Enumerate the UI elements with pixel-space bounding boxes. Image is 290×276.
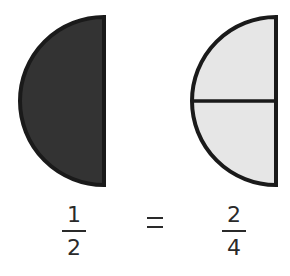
numerator: 1: [59, 204, 89, 226]
fraction-two-fourths: 2 4: [219, 204, 249, 259]
fraction-bar: [222, 230, 246, 232]
numerator: 2: [219, 204, 249, 226]
fraction-one-half: 1 2: [59, 204, 89, 259]
denominator: 2: [59, 237, 89, 259]
denominator: 4: [219, 237, 249, 259]
equals-sign: [145, 217, 165, 229]
half-circle-shaded: [20, 17, 104, 185]
equals-line-bottom: [147, 226, 163, 228]
fraction-bar: [62, 230, 86, 232]
equals-line-top: [147, 217, 163, 219]
